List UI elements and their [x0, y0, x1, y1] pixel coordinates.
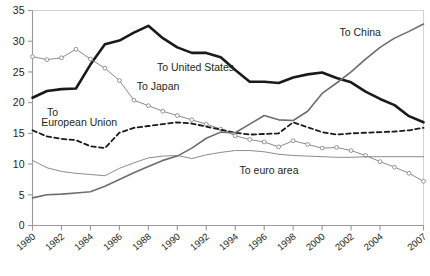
x-axis-tick-label: 1980	[14, 231, 37, 253]
y-axis-tick-label: 20	[13, 96, 25, 108]
x-axis-tick-label: 2004	[362, 231, 385, 253]
y-axis-tick-label: 10	[13, 158, 25, 170]
series-line-to-china	[33, 24, 424, 198]
data-point-marker	[233, 134, 237, 138]
data-point-marker	[204, 122, 208, 126]
x-axis-tick-label: 1996	[246, 231, 269, 253]
x-axis-tick-label: 1984	[72, 231, 95, 253]
y-axis-tick-label: 35	[13, 4, 25, 16]
x-axis-tick-label: 1994	[217, 231, 240, 253]
data-point-marker	[117, 79, 121, 83]
line-chart: 05101520253035 1980198219841986198819901…	[0, 0, 430, 276]
x-axis-tick-label: 1982	[43, 231, 66, 253]
y-axis-tick-label: 25	[13, 66, 25, 78]
data-point-marker	[248, 138, 252, 142]
data-point-marker	[89, 57, 93, 61]
data-point-marker	[103, 66, 107, 70]
x-axis-tick-label: 1986	[101, 231, 124, 253]
y-axis-tick-label: 15	[13, 127, 25, 139]
data-point-marker	[161, 109, 165, 113]
data-point-marker	[320, 146, 324, 150]
data-point-marker	[306, 143, 310, 147]
x-axis-tick-label: 2000	[304, 231, 327, 253]
x-axis-tick-label: 1998	[275, 231, 298, 253]
label-to-european-union-line2: European Union	[41, 116, 117, 128]
data-point-marker	[335, 146, 339, 150]
series-line-to-united-states	[33, 26, 424, 122]
x-axis-tick-label: 1992	[188, 231, 211, 253]
data-point-marker	[349, 149, 353, 153]
data-point-marker	[277, 145, 281, 149]
data-point-marker	[393, 165, 397, 169]
data-point-marker	[262, 140, 266, 144]
x-axis: 1980198219841986198819901992199419961998…	[14, 226, 428, 253]
series-annotations: To United StatesTo JapanToEuropean Union…	[41, 26, 381, 176]
label-to-china: To China	[340, 26, 382, 38]
y-axis: 05101520253035	[13, 4, 33, 231]
data-point-marker	[422, 179, 426, 183]
data-point-marker	[146, 104, 150, 108]
x-axis-tick-label: 1990	[159, 231, 182, 253]
x-axis-tick-label: 2002	[333, 231, 356, 253]
label-to-japan: To Japan	[137, 80, 180, 92]
y-axis-tick-label: 30	[13, 35, 25, 47]
data-point-marker	[74, 47, 78, 51]
data-point-marker	[378, 160, 382, 164]
label-to-euro-area: To euro area	[240, 164, 299, 176]
data-point-marker	[190, 118, 194, 122]
x-axis-tick-label: 1988	[130, 231, 153, 253]
y-axis-tick-label: 0	[19, 219, 25, 231]
series-layer	[31, 24, 426, 198]
data-point-marker	[291, 139, 295, 143]
data-point-marker	[45, 58, 49, 62]
data-point-marker	[175, 114, 179, 118]
data-point-marker	[60, 56, 64, 60]
y-axis-tick-label: 5	[19, 189, 25, 201]
x-axis-tick-label: 2007	[405, 231, 428, 253]
label-to-united-states: To United States	[157, 61, 234, 73]
data-point-marker	[407, 171, 411, 175]
data-point-marker	[132, 98, 136, 102]
chart-container: 05101520253035 1980198219841986198819901…	[0, 0, 430, 276]
data-point-marker	[31, 55, 35, 59]
